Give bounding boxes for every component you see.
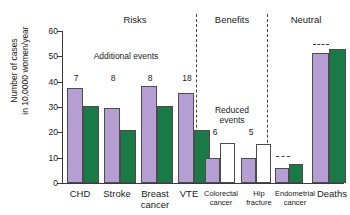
x-label-breast-cancer: Breast cancer — [134, 188, 176, 210]
bar-chd-placebo[interactable] — [83, 106, 99, 183]
y-axis-title-line2: in 10,0000 women/year — [19, 26, 29, 114]
data-label-vte: 18 — [175, 74, 199, 83]
bar-deaths-placebo[interactable] — [329, 49, 346, 183]
marker-endometrial-cancer-nonsignificant — [276, 156, 290, 157]
bar-stroke-placebo[interactable] — [120, 130, 136, 183]
bar-hip-fracture-placebo[interactable] — [256, 144, 271, 183]
y-axis-title-line1: Number of cases — [9, 38, 19, 102]
x-axis-line — [62, 183, 344, 184]
chart-figure: 60 50 40 30 20 10 0 Number of casesin 10… — [0, 0, 350, 215]
y-tick-label-50: 50 — [38, 52, 58, 61]
x-label-stroke: Stroke — [96, 188, 138, 199]
bar-breast-cancer-treatment[interactable] — [141, 86, 157, 184]
x-label-chd: CHD — [61, 188, 99, 199]
y-tick-label-0: 0 — [38, 179, 58, 188]
bar-vte-treatment[interactable] — [178, 93, 194, 183]
section-title-neutral: Neutral — [268, 14, 344, 25]
y-tick-label-10: 10 — [38, 154, 58, 163]
data-label-stroke: 8 — [101, 74, 125, 83]
data-label-colorectal-cancer: 6 — [203, 128, 227, 137]
y-tick-label-60: 60 — [38, 27, 58, 36]
bar-endometrial-cancer-placebo[interactable] — [289, 164, 303, 183]
section-title-risks: Risks — [90, 14, 180, 25]
bar-hip-fracture-treatment[interactable] — [241, 158, 256, 183]
section-title-benefits: Benefits — [197, 14, 267, 25]
x-label-deaths: Deaths — [314, 188, 350, 199]
data-label-chd: 7 — [64, 74, 88, 83]
y-tick-label-40: 40 — [38, 78, 58, 87]
y-axis-title: Number of casesin 10,0000 women/year — [9, 11, 30, 131]
bar-chd-treatment[interactable] — [67, 88, 83, 183]
y-tick-label-20: 20 — [38, 128, 58, 137]
bar-deaths-treatment[interactable] — [312, 53, 329, 184]
data-label-breast-cancer: 8 — [138, 74, 162, 83]
bar-endometrial-cancer-treatment[interactable] — [275, 168, 289, 183]
bar-colorectal-cancer-placebo[interactable] — [220, 143, 235, 184]
marker-deaths-nonsignificant — [313, 44, 329, 45]
bar-colorectal-cancer-treatment[interactable] — [205, 158, 220, 183]
data-label-hip-fracture: 5 — [239, 128, 263, 137]
bar-stroke-treatment[interactable] — [104, 108, 120, 183]
bar-breast-cancer-placebo[interactable] — [157, 106, 173, 183]
plot-area — [63, 31, 343, 183]
y-tick-label-30: 30 — [38, 103, 58, 112]
